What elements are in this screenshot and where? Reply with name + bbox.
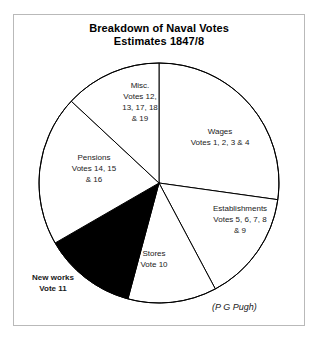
slice-label-establishments-line-2: Votes 5, 6, 7, 8 [186,214,294,225]
slice-label-pensions-line-1: Pensions [48,152,140,163]
slice-label-new-works: New works Vote 11 [14,272,92,294]
slice-label-misc-line-4: & 19 [100,113,180,124]
slice-label-pensions-line-2: Votes 14, 15 [48,163,140,174]
slice-label-misc-line-2: Votes 12, [100,91,180,102]
attribution-credit: (P G Pugh) [212,302,257,312]
slice-label-establishments-line-1: Establishments [186,203,294,214]
slice-label-wages-line-1: Wages [172,126,268,137]
slice-label-pensions-line-3: & 16 [48,174,140,185]
slice-label-establishments-line-3: & 9 [186,225,294,236]
slice-label-stores-line-2: Vote 10 [114,259,194,270]
slice-label-wages: Wages Votes 1, 2, 3 & 4 [172,126,268,148]
slice-label-misc-line-3: 13, 17, 18 [100,102,180,113]
slice-label-misc: Misc. Votes 12, 13, 17, 18 & 19 [100,80,180,124]
slice-label-wages-line-2: Votes 1, 2, 3 & 4 [172,137,268,148]
slice-label-stores-line-1: Stores [114,248,194,259]
slice-label-stores: Stores Vote 10 [114,248,194,270]
slice-label-misc-line-1: Misc. [100,80,180,91]
slice-label-new-works-line-2: Vote 11 [14,283,92,294]
naval-votes-figure: Breakdown of Naval Votes Estimates 1847/… [0,0,319,342]
slice-label-new-works-line-1: New works [14,272,92,283]
slice-label-pensions: Pensions Votes 14, 15 & 16 [48,152,140,185]
slice-label-establishments: Establishments Votes 5, 6, 7, 8 & 9 [186,203,294,236]
